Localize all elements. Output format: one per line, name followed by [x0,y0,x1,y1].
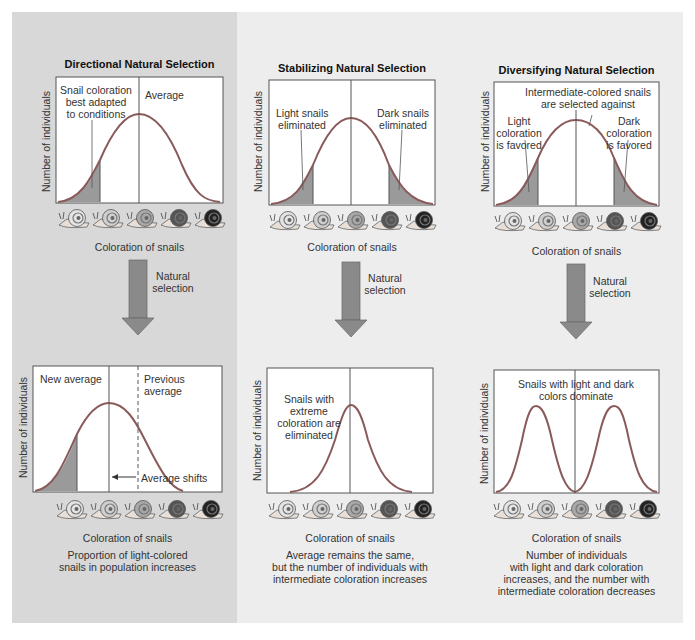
snail-row-stabilizing-bottom [269,501,435,519]
arrow-label: Natural selection [587,275,633,299]
x-axis-label: Coloration of snails [494,245,659,257]
snail-row-directional-bottom [57,501,223,519]
arrow-label: Natural selection [362,272,408,296]
average-shifts-label: Average shifts [141,472,207,484]
adapted-annotation: Snail coloration best adapted to conditi… [57,84,135,120]
y-axis-label: Number of individuals [40,91,52,192]
snail-row-diversifying-bottom [494,501,660,519]
arrow-label: Natural selection [150,270,196,294]
light-favored-label: Light coloration is favored [495,115,543,151]
y-axis-label: Number of individuals [479,91,491,192]
y-axis-label: Number of individuals [17,377,29,478]
extreme-eliminated-label: Snails with extreme coloration are elimi… [272,393,346,441]
x-axis-label: Coloration of snails [56,241,223,253]
average-label: Average [145,89,184,101]
diversifying-caption: Number of individuals with light and dar… [490,549,663,597]
new-average-label: New average [40,373,102,385]
intermediate-selected-against-label: Intermediate-colored snails are selected… [520,86,656,110]
stabilizing-caption: Average remains the same, but the number… [262,549,438,585]
y-axis-label: Number of individuals [478,383,490,484]
directional-caption: Proportion of light-colored snails in po… [33,549,222,573]
dark-favored-label: Dark coloration is favored [605,115,653,151]
diversifying-title: Diversifying Natural Selection [494,64,659,76]
y-axis-label: Number of individuals [252,91,264,192]
y-axis-label: Number of individuals [251,380,263,481]
snail-row-diversifying-top [495,213,661,231]
x-axis-label: Coloration of snails [267,532,433,544]
snail-row-stabilizing-top [270,212,436,230]
previous-average-label: Previous average [144,373,185,397]
x-axis-label: Coloration of snails [269,241,435,253]
stabilizing-top-chart [269,80,435,205]
x-axis-label: Coloration of snails [494,532,659,544]
dark-eliminated-label: Dark snails eliminated [374,107,432,131]
light-eliminated-label: Light snails eliminated [276,107,328,131]
stabilizing-title: Stabilizing Natural Selection [269,62,435,74]
x-axis-label: Coloration of snails [33,532,222,544]
light-dark-dominate-label: Snails with light and dark colors domina… [500,378,652,402]
snail-row-directional-top [59,210,225,228]
directional-title: Directional Natural Selection [56,58,223,70]
